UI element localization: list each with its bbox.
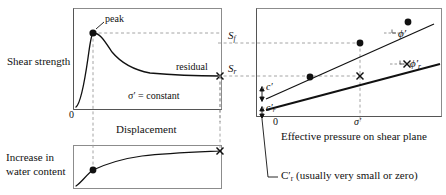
cohesion-peak-label: c′ — [266, 82, 273, 93]
right-sigma-tick-label: σ′ — [354, 117, 361, 128]
water-peak-point-marker — [90, 167, 97, 174]
caption-symbol: C′ — [281, 169, 291, 181]
phi-peak-label: ϕ′ — [398, 28, 406, 40]
Sf-subscript: f — [234, 34, 236, 43]
lower-left-y-axis-label-line1: Increase in — [6, 152, 54, 164]
Sf-tick-label: Sf — [228, 30, 236, 43]
lower-left-y-axis-label-line2: water content — [6, 166, 66, 178]
figure-canvas — [0, 0, 446, 195]
right-dashed-guides — [218, 43, 360, 122]
cohesion-residual-symbol: c′ — [266, 102, 273, 113]
peak-env-point-2 — [357, 40, 364, 47]
residual-cohesion-caption: C′r (usually very small or zero) — [281, 170, 418, 183]
peak-annotation-label: peak — [105, 14, 124, 25]
Sr-tick-label: Sr — [228, 63, 236, 76]
water-content-curve — [76, 151, 220, 186]
upper-left-y-axis-label: Shear strength — [7, 56, 70, 68]
sigma-constant-note: σ′ = constant — [128, 91, 180, 102]
right-origin-tick-label: 0 — [273, 117, 278, 128]
figure-root: Shear strength peak residual σ′ = consta… — [0, 0, 446, 195]
phi-residual-label: ϕ′r — [410, 58, 421, 71]
right-x-axis-label: Effective pressure on shear plane — [281, 131, 427, 143]
peak-env-point-1 — [307, 74, 314, 81]
cohesion-residual-label: c′r — [266, 103, 275, 114]
caption-text: (usually very small or zero) — [296, 169, 418, 181]
peak-point-marker — [89, 29, 96, 36]
phi-residual-subscript: r — [418, 62, 421, 71]
residual-annotation-label: residual — [176, 62, 208, 73]
cohesion-residual-subscript: r — [273, 106, 276, 113]
peak-leader-line — [96, 22, 104, 29]
phi-residual-symbol: ϕ′ — [410, 57, 418, 69]
peak-env-point-3 — [405, 19, 412, 26]
upper-left-dashed-guides — [93, 33, 221, 128]
cohesion-intercept-arrows — [260, 87, 264, 119]
phi-peak-right-angle — [392, 30, 396, 34]
Sr-subscript: r — [234, 67, 237, 76]
upper-left-x-axis-label: Displacement — [116, 124, 176, 136]
upper-left-origin-tick-label: 0 — [69, 110, 74, 121]
